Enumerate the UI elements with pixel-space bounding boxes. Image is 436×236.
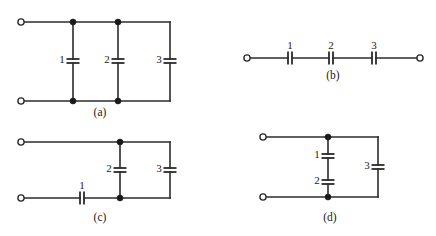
terminal-top-left-c[interactable] (18, 139, 24, 145)
caption-a: (a) (94, 106, 107, 119)
capacitor-label-d-2: 2 (314, 174, 320, 186)
node-bottom-1-a (70, 98, 76, 104)
terminal-right-b[interactable] (417, 55, 423, 61)
capacitor-label-b-1: 1 (287, 39, 293, 51)
terminal-bottom-left-d[interactable] (260, 194, 266, 200)
capacitor-label-a-3: 3 (156, 53, 162, 65)
capacitor-a-1: 1 (59, 53, 79, 65)
terminal-left-b[interactable] (244, 55, 250, 61)
node-bottom-2-a (115, 98, 121, 104)
capacitor-c-1: 1 (79, 179, 85, 205)
capacitor-d-2: 2 (314, 174, 334, 186)
capacitor-d-1: 1 (314, 148, 334, 160)
capacitor-label-b-3: 3 (371, 39, 377, 51)
capacitor-label-a-1: 1 (59, 53, 65, 65)
capacitor-a-2: 2 (104, 53, 124, 65)
capacitor-label-c-2: 2 (106, 162, 112, 174)
capacitor-b-1: 1 (287, 39, 293, 65)
caption-c: (c) (94, 211, 107, 224)
circuit-a: 123(a) (18, 19, 177, 119)
capacitor-d-3: 3 (364, 159, 384, 171)
circuit-d: 123(d) (260, 134, 385, 224)
node-bottom-d (325, 194, 331, 200)
capacitor-c-3: 3 (156, 162, 176, 174)
capacitor-c-2: 2 (106, 162, 126, 174)
capacitor-label-c-1: 1 (79, 179, 85, 191)
capacitor-label-d-3: 3 (364, 159, 370, 171)
capacitor-b-2: 2 (328, 39, 334, 65)
node-top-d (325, 134, 331, 140)
caption-b: (b) (326, 69, 340, 82)
capacitor-label-a-2: 2 (104, 53, 110, 65)
terminal-bottom-left-c[interactable] (18, 195, 24, 201)
capacitor-b-3: 3 (371, 39, 377, 65)
circuit-b: 123(b) (244, 39, 423, 82)
capacitor-label-c-3: 3 (156, 162, 162, 174)
node-bottom-c (117, 195, 123, 201)
circuit-diagram-canvas: 123(a)123(b)123(c)123(d) (0, 0, 436, 236)
capacitor-label-b-2: 2 (328, 39, 334, 51)
terminal-bottom-left-a[interactable] (18, 98, 24, 104)
terminal-top-left-d[interactable] (260, 134, 266, 140)
capacitor-a-3: 3 (156, 53, 176, 65)
node-top-1-a (70, 19, 76, 25)
caption-d: (d) (323, 211, 337, 224)
node-top-2-a (115, 19, 121, 25)
node-top-c (117, 139, 123, 145)
capacitor-label-d-1: 1 (314, 148, 320, 160)
terminal-top-left-a[interactable] (18, 19, 24, 25)
circuit-c: 123(c) (18, 139, 177, 224)
figure-root: 123(a)123(b)123(c)123(d) (0, 0, 436, 236)
